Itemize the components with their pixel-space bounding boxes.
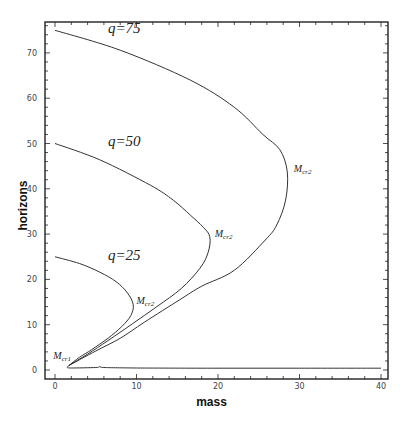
x-tick-label: 0 (52, 382, 57, 391)
critical-mass-label: Mcr2 (293, 163, 312, 176)
label-subscript: cr2 (145, 300, 155, 308)
annotations: q=75q=50q=25Mcr1Mcr2Mcr2Mcr2 (52, 20, 312, 363)
plot-frame (45, 22, 388, 379)
y-axis-title: horizons (16, 180, 30, 230)
curve-label: q=75 (108, 20, 141, 36)
x-tick-label: 30 (294, 382, 304, 391)
x-tick-label: 10 (131, 382, 141, 391)
label-subscript: cr2 (223, 233, 233, 241)
label-subscript: cr1 (62, 355, 71, 363)
y-tick-label: 60 (27, 94, 37, 103)
series-group (55, 30, 381, 368)
y-tick-label: 50 (27, 140, 37, 149)
ticks: 010203040010203040506070 (27, 22, 388, 391)
critical-mass-label: Mcr1 (52, 350, 71, 363)
x-tick-label: 20 (213, 382, 223, 391)
series-line-q-25 (55, 257, 133, 366)
y-tick-label: 10 (27, 321, 37, 330)
series-line-q-75 (55, 30, 288, 365)
curve-label: q=50 (108, 133, 141, 149)
curve-label: q=25 (108, 247, 141, 263)
y-tick-label: 70 (27, 49, 37, 58)
plot-border (45, 22, 388, 379)
series-line-lower-branch (67, 366, 381, 369)
x-axis-title: mass (196, 395, 227, 409)
x-tick-label: 40 (376, 382, 386, 391)
critical-mass-label: Mcr2 (136, 295, 155, 308)
critical-mass-label: Mcr2 (214, 228, 233, 241)
chart-svg: 010203040010203040506070 q=75q=50q=25Mcr… (0, 0, 407, 425)
label-subscript: cr2 (302, 168, 312, 176)
y-tick-label: 20 (27, 275, 37, 284)
y-tick-label: 0 (32, 366, 37, 375)
chart-figure: 010203040010203040506070 q=75q=50q=25Mcr… (0, 0, 407, 425)
